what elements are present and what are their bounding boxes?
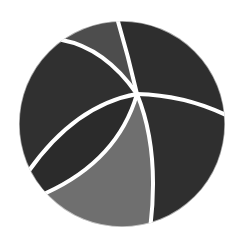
- beach-ball-icon: [0, 0, 244, 244]
- image-canvas: Beach ball: [0, 0, 244, 244]
